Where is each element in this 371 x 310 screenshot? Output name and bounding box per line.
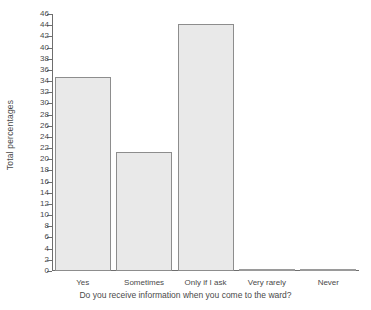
y-tick-label: 26 <box>40 121 49 130</box>
y-tick-label: 18 <box>40 165 49 174</box>
y-tick-label: 10 <box>40 210 49 219</box>
y-tick-label: 44 <box>40 20 49 29</box>
x-tick-label: Sometimes <box>124 278 164 288</box>
bar <box>300 269 356 271</box>
y-tick-label: 24 <box>40 132 49 141</box>
y-tick-label: 28 <box>40 110 49 119</box>
x-axis-title: Do you receive information when you come… <box>0 290 371 300</box>
plot-area: 0246810121416182022242628303234363840424… <box>52 14 359 271</box>
y-tick-label: 32 <box>40 87 49 96</box>
y-tick-label: 16 <box>40 177 49 186</box>
bar <box>178 24 234 272</box>
y-tick-label: 30 <box>40 98 49 107</box>
y-tick-label: 34 <box>40 76 49 85</box>
y-tick-label: 46 <box>40 9 49 18</box>
y-tick-label: 2 <box>45 255 49 264</box>
bar <box>239 269 295 271</box>
y-tick-label: 22 <box>40 143 49 152</box>
y-tick-label: 42 <box>40 31 49 40</box>
y-tick-label: 20 <box>40 154 49 163</box>
y-tick-label: 40 <box>40 43 49 52</box>
y-tick-label: 0 <box>45 266 49 275</box>
x-tick-label: Only if I ask <box>185 278 227 288</box>
y-tick-label: 14 <box>40 188 49 197</box>
y-tick-label: 4 <box>45 244 49 253</box>
y-tick-label: 8 <box>45 221 49 230</box>
x-tick-label: Yes <box>76 278 89 288</box>
y-tick-label: 36 <box>40 65 49 74</box>
x-tick-label: Never <box>318 278 339 288</box>
y-tick-label: 38 <box>40 54 49 63</box>
y-axis-line <box>52 14 53 271</box>
bar <box>55 77 111 271</box>
y-axis-title: Total percentages <box>0 0 20 270</box>
y-tick-label: 6 <box>45 232 49 241</box>
bar <box>116 152 172 271</box>
bar-chart-figure: Total percentages 0246810121416182022242… <box>0 0 371 310</box>
y-tick-label: 12 <box>40 199 49 208</box>
y-axis-title-text: Total percentages <box>5 100 15 171</box>
x-tick-label: Very rarely <box>248 278 286 288</box>
